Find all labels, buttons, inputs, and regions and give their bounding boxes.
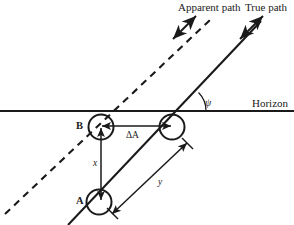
psi-angle-label: ψ [205, 98, 211, 108]
diagram-canvas [0, 0, 294, 225]
true-path-marker-arrow [240, 16, 263, 39]
aberration-diagram: Apparent path True path Horizon ψ B A ΔA… [0, 0, 294, 225]
horizon-label: Horizon [252, 98, 288, 109]
true-path-line [68, 21, 261, 225]
circle-right-horizon [160, 115, 185, 140]
x-measure-label: x [93, 159, 97, 169]
y-measure-arrow [112, 143, 187, 214]
delta-a-label: ΔA [126, 131, 139, 141]
y-measure-tick-end [182, 138, 193, 149]
point-b-label: B [76, 121, 83, 132]
true-path-label: True path [245, 2, 287, 13]
apparent-path-label: Apparent path [178, 2, 241, 13]
apparent-path-marker-arrow [173, 16, 196, 39]
y-measure-label: y [158, 178, 162, 188]
point-a-label: A [76, 196, 84, 207]
